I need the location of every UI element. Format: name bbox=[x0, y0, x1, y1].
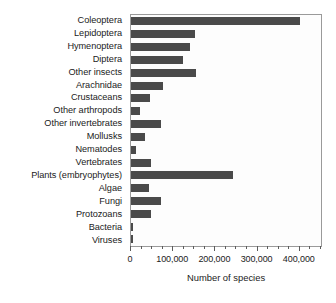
minor-tick bbox=[141, 246, 142, 249]
bar-row bbox=[131, 195, 321, 208]
category-label: Bacteria bbox=[0, 221, 126, 234]
category-label: Mollusks bbox=[0, 130, 126, 143]
bar bbox=[131, 146, 136, 154]
bar-series bbox=[131, 15, 321, 246]
bar-row bbox=[131, 41, 321, 54]
bar bbox=[131, 159, 151, 167]
major-tick bbox=[214, 246, 215, 251]
bar-row bbox=[131, 53, 321, 66]
bar bbox=[131, 184, 149, 192]
bar bbox=[131, 94, 150, 102]
x-axis-title: Number of species bbox=[130, 272, 322, 283]
bar-row bbox=[131, 143, 321, 156]
bar-row bbox=[131, 92, 321, 105]
category-label: Arachnidae bbox=[0, 79, 126, 92]
bar-row bbox=[131, 130, 321, 143]
x-tick-label: 100,000 bbox=[156, 254, 188, 264]
bar-row bbox=[131, 105, 321, 118]
bar bbox=[131, 17, 300, 25]
bar-row bbox=[131, 220, 321, 233]
bar-row bbox=[131, 28, 321, 41]
category-label: Algae bbox=[0, 182, 126, 195]
minor-tick bbox=[162, 246, 163, 249]
minor-tick bbox=[246, 246, 247, 249]
bar bbox=[131, 235, 133, 243]
bar bbox=[131, 120, 161, 128]
category-label-axis: ColeopteraLepidopteraHymenopteraDipteraO… bbox=[0, 14, 126, 247]
bar-row bbox=[131, 79, 321, 92]
bar bbox=[131, 30, 195, 38]
bar-row bbox=[131, 156, 321, 169]
minor-tick bbox=[309, 246, 310, 249]
x-axis-ticks bbox=[130, 246, 322, 254]
minor-tick bbox=[267, 246, 268, 249]
minor-tick bbox=[151, 246, 152, 249]
bar-row bbox=[131, 233, 321, 246]
bar bbox=[131, 82, 163, 90]
bar bbox=[131, 210, 151, 218]
bar-row bbox=[131, 66, 321, 79]
major-tick bbox=[172, 246, 173, 251]
category-label: Other invertebrates bbox=[0, 118, 126, 131]
minor-tick bbox=[288, 246, 289, 249]
category-label: Coleoptera bbox=[0, 14, 126, 27]
bar bbox=[131, 133, 145, 141]
bar bbox=[131, 107, 140, 115]
minor-tick bbox=[278, 246, 279, 249]
major-tick bbox=[130, 246, 131, 251]
category-label: Protozoans bbox=[0, 208, 126, 221]
bar-row bbox=[131, 207, 321, 220]
bar-row bbox=[131, 169, 321, 182]
bar-row bbox=[131, 182, 321, 195]
bar bbox=[131, 56, 183, 64]
bar-row bbox=[131, 15, 321, 28]
category-label: Vertebrates bbox=[0, 156, 126, 169]
minor-tick bbox=[225, 246, 226, 249]
major-tick bbox=[299, 246, 300, 251]
bar-row bbox=[131, 118, 321, 131]
minor-tick bbox=[320, 246, 321, 249]
category-label: Fungi bbox=[0, 195, 126, 208]
category-label: Other insects bbox=[0, 66, 126, 79]
category-label: Crustaceans bbox=[0, 92, 126, 105]
x-tick-label: 0 bbox=[128, 254, 133, 264]
category-label: Nematodes bbox=[0, 143, 126, 156]
category-label: Lepidoptera bbox=[0, 27, 126, 40]
x-axis-tick-labels: 0100,000200,000300,000400,000 bbox=[100, 254, 336, 268]
bar bbox=[131, 69, 196, 77]
x-tick-label: 300,000 bbox=[241, 254, 273, 264]
major-tick bbox=[257, 246, 258, 251]
x-tick-label: 400,000 bbox=[283, 254, 315, 264]
species-bar-chart-figure: ColeopteraLepidopteraHymenopteraDipteraO… bbox=[0, 0, 336, 303]
bar bbox=[131, 171, 233, 179]
bar bbox=[131, 223, 133, 231]
plot-area bbox=[130, 14, 322, 247]
category-label: Diptera bbox=[0, 53, 126, 66]
bar bbox=[131, 43, 190, 51]
category-label: Plants (embryophytes) bbox=[0, 169, 126, 182]
category-label: Hymenoptera bbox=[0, 40, 126, 53]
bar bbox=[131, 197, 161, 205]
minor-tick bbox=[235, 246, 236, 249]
x-tick-label: 200,000 bbox=[198, 254, 230, 264]
minor-tick bbox=[193, 246, 194, 249]
minor-tick bbox=[204, 246, 205, 249]
category-label: Other arthropods bbox=[0, 105, 126, 118]
minor-tick bbox=[183, 246, 184, 249]
category-label: Viruses bbox=[0, 234, 126, 247]
